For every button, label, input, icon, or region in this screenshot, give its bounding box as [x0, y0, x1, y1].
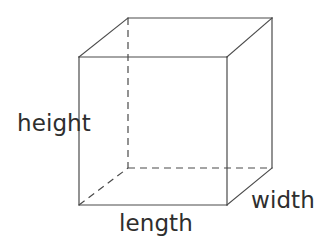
hidden-edge-depth-bottom-left [79, 168, 128, 205]
cube-hidden-edges [79, 18, 272, 205]
cube-dimensions-figure: height length width [0, 0, 326, 243]
edge-depth-top-right [227, 18, 272, 57]
label-height: height [17, 112, 91, 135]
cube-visible-edges [79, 18, 272, 205]
label-length: length [119, 212, 193, 235]
edge-depth-top-left [79, 18, 128, 57]
label-width: width [251, 189, 315, 212]
